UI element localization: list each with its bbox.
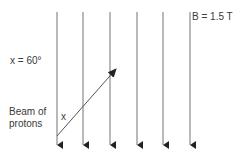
- angle-label: x = 60°: [10, 55, 42, 67]
- angle-mark: x: [61, 111, 66, 123]
- proton-beam-arrow: [57, 69, 116, 136]
- field-lines: [57, 12, 190, 145]
- field-strength-label: B = 1.5 T: [192, 11, 233, 23]
- beam-label: Beam of protons: [9, 106, 49, 130]
